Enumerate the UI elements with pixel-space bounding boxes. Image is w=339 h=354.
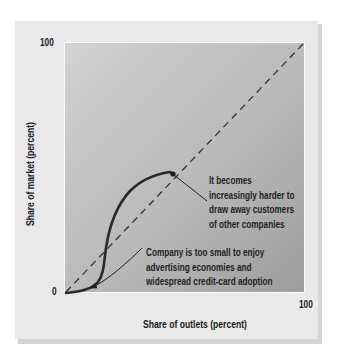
lower-annotation: Company is too small to enjoy advertisin… [146,245,273,289]
upper-annotation-line: of other companies [209,217,295,232]
upper-annotation-leader [174,175,207,201]
upper-annotation-line: It becomes [209,173,295,188]
upper-annotation-line: draw away customers [209,202,295,217]
lower-annotation-line: Company is too small to enjoy [146,245,273,260]
upper-annotation: It becomes increasingly harder to draw a… [209,173,295,231]
lower-annotation-line: widespread credit-card adoption [146,274,273,289]
upper-annotation-line: increasingly harder to [209,188,295,203]
lower-annotation-line: advertising economies and [146,260,273,275]
